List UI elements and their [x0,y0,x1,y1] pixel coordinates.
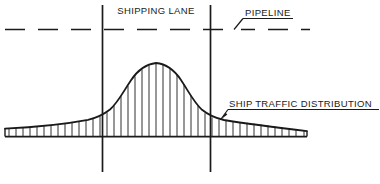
ship-traffic-distribution-diagram: SHIPPING LANE PIPELINE SHIP TRAFFIC DIST… [0,0,380,184]
ship-traffic-distribution-leader [221,110,379,120]
ship-traffic-distribution-label: SHIP TRAFFIC DISTRIBUTION [229,98,372,109]
shipping-lane-label: SHIPPING LANE [117,5,194,16]
diagram-canvas: SHIPPING LANE PIPELINE SHIP TRAFFIC DIST… [0,0,380,184]
pipeline-label: PIPELINE [245,7,291,18]
pipeline-leader-leg [234,19,243,30]
pipeline-leader [234,19,293,30]
